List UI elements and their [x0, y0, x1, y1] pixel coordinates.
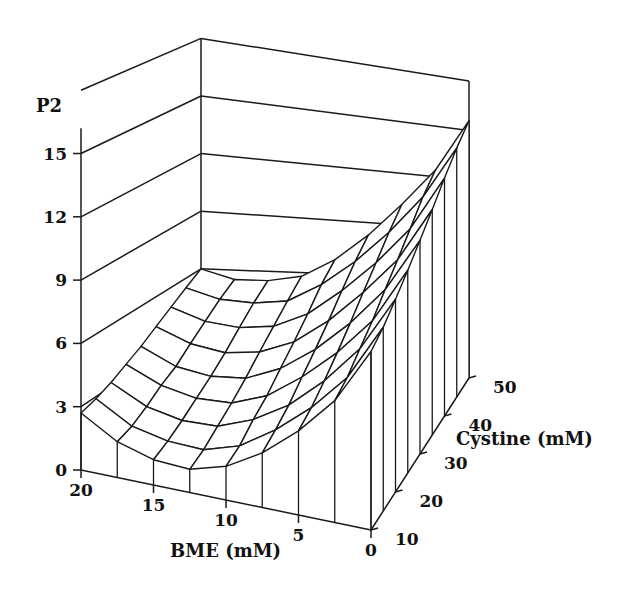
left-wall-gridline — [81, 154, 201, 217]
z-tick-label: 3 — [55, 397, 67, 417]
y-tick-label: 40 — [469, 415, 493, 435]
y-tick-label: 30 — [444, 453, 468, 473]
y-tick-label: 10 — [395, 529, 419, 549]
left-top-edge — [81, 38, 201, 90]
x-tick-label: 15 — [142, 495, 166, 515]
x-tick-label: 5 — [293, 525, 305, 545]
back-wall-gridline — [201, 96, 469, 131]
x-axis-title: BME (mM) — [170, 540, 281, 561]
z-axis-title: P2 — [36, 95, 62, 116]
x-tick-label: 0 — [365, 540, 377, 560]
surface-plot: P2 BME (mM) Cystine (mM) 0 3 6 9 12 15 2… — [0, 0, 617, 593]
y-tick-label: 50 — [493, 377, 517, 397]
z-tick-label: 15 — [43, 144, 67, 164]
x-tick-label: 10 — [214, 510, 238, 530]
z-tick-label: 0 — [55, 460, 67, 480]
x-tick-label: 20 — [69, 480, 93, 500]
z-tick-label: 9 — [55, 270, 67, 290]
left-wall-gridline — [81, 211, 201, 280]
left-wall-gridline — [81, 96, 201, 154]
back-top-edge — [201, 38, 469, 81]
z-tick-label: 6 — [55, 333, 67, 353]
z-tick-label: 12 — [43, 207, 67, 227]
y-tick — [469, 376, 476, 378]
y-tick-label: 20 — [420, 491, 444, 511]
z-tick-labels: 0 3 6 9 12 15 — [43, 144, 67, 481]
